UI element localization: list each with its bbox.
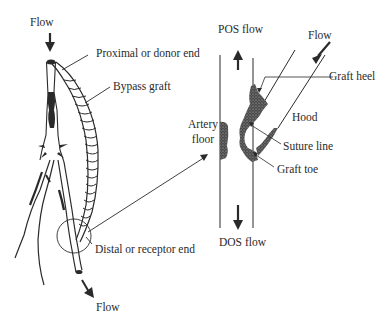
suture-line-label: Suture line bbox=[283, 141, 333, 153]
artery-floor-plaque bbox=[220, 122, 228, 160]
bypass-graft-label: Bypass graft bbox=[113, 81, 171, 93]
flow-label: Flow bbox=[308, 30, 332, 42]
bypass-graft bbox=[52, 62, 98, 242]
flow-out-label: Flow bbox=[96, 302, 120, 314]
left-leader-lines bbox=[62, 55, 110, 244]
graft-toe-label: Graft toe bbox=[277, 164, 318, 176]
distal-end-label: Distal or receptor end bbox=[95, 244, 195, 256]
left-panel bbox=[15, 33, 208, 298]
flow-in-arrow-icon bbox=[45, 33, 55, 52]
proximal-end-label: Proximal or donor end bbox=[96, 48, 200, 60]
graft-heel-label: Graft heel bbox=[329, 71, 375, 83]
artery-floor-label-line1: Artery bbox=[188, 119, 218, 131]
flow-out-arrow-icon bbox=[82, 280, 94, 298]
dos-flow-arrow-icon bbox=[233, 205, 243, 230]
dos-flow-label: DOS flow bbox=[219, 237, 266, 249]
native-artery bbox=[15, 60, 83, 286]
right-panel bbox=[220, 42, 333, 230]
detail-connector-line bbox=[88, 157, 205, 232]
flow-in-label: Flow bbox=[30, 17, 54, 29]
hood-label: Hood bbox=[292, 112, 318, 124]
pos-flow-arrow-icon bbox=[233, 50, 243, 70]
pos-flow-label: POS flow bbox=[218, 24, 263, 36]
artery-floor-label-line2: floor bbox=[188, 134, 218, 146]
